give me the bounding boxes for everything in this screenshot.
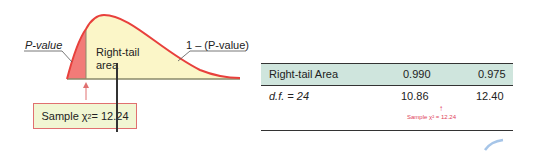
complement-leader-line [178, 51, 246, 61]
table-row: d.f. = 24 10.86 12.40 ↑ Sample χ² = 12.2… [261, 86, 513, 131]
chi-square-table: Right-tail Area 0.990 0.975 d.f. = 24 10… [261, 63, 513, 131]
table-column-divider [116, 63, 118, 132]
p-value-leader-line [24, 51, 72, 62]
sample-chi-square-box: Sample χ2 = 12.24 [33, 103, 137, 129]
right-tail-area-label: Right-tail area [96, 46, 139, 72]
sample-annotation: Sample χ² = 12.24 [407, 114, 456, 120]
row-value-1240: 12.40 [476, 90, 504, 102]
row-value-1086: 10.86 [401, 90, 429, 102]
sample-arrow-head [83, 82, 89, 88]
header-label: Right-tail Area [269, 68, 338, 80]
header-value-0990: 0.990 [403, 68, 431, 80]
header-value-0975: 0.975 [478, 68, 506, 80]
p-value-label: P-value [25, 39, 62, 51]
pen-mark-icon [483, 138, 505, 152]
table-header-row: Right-tail Area 0.990 0.975 [261, 63, 513, 86]
df-label: d.f. = 24 [269, 90, 309, 102]
annotation-arrow-icon: ↑ [439, 104, 443, 113]
complement-label: 1 – (P-value) [186, 39, 249, 51]
